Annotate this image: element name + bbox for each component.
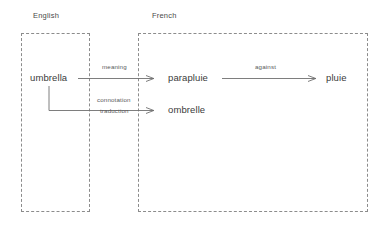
node-parapluie: parapluie bbox=[168, 72, 208, 83]
node-umbrella: umbrella bbox=[30, 72, 67, 83]
edge-label-connotation: connotation bbox=[97, 96, 131, 103]
node-pluie: pluie bbox=[326, 72, 347, 83]
edge-label-meaning: meaning bbox=[102, 63, 127, 70]
edge-label-against: against bbox=[255, 63, 276, 70]
node-ombrelle: ombrelle bbox=[168, 104, 205, 115]
edge-label-traduction: traduction bbox=[100, 107, 129, 114]
diagram-canvas: English French umbrella parapluie ombrel… bbox=[0, 0, 386, 226]
